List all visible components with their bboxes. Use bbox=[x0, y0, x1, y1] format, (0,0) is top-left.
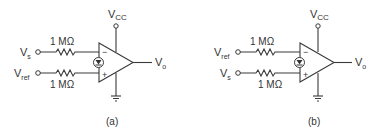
input-label-bottom: Vs bbox=[220, 67, 231, 81]
resistor-top-value: 1 MΩ bbox=[250, 36, 275, 47]
panel-b: Vref Vs 1 MΩ 1 MΩ − + VCC Vo (b) bbox=[214, 8, 366, 127]
vo-label: Vo bbox=[155, 56, 166, 70]
vo-label: Vo bbox=[355, 56, 366, 70]
pin-plus: + bbox=[303, 70, 308, 80]
terminal-bottom bbox=[36, 71, 41, 76]
resistor-top bbox=[40, 49, 99, 55]
vcc-terminal bbox=[114, 24, 118, 28]
pin-plus: + bbox=[102, 70, 107, 80]
resistor-bottom bbox=[240, 70, 300, 76]
resistor-bottom-value: 1 MΩ bbox=[50, 79, 75, 90]
terminal-top bbox=[36, 50, 41, 55]
terminal-top bbox=[236, 50, 241, 55]
circuit-figure: Vs Vref 1 MΩ 1 MΩ − + VCC Vo (a) Vref Vs bbox=[0, 0, 379, 133]
resistor-bottom-value: 1 MΩ bbox=[258, 79, 283, 90]
pin-minus: − bbox=[102, 47, 107, 57]
caption-a: (a) bbox=[106, 116, 118, 127]
caption-b: (b) bbox=[308, 116, 320, 127]
resistor-bottom bbox=[40, 70, 99, 76]
input-label-bottom: Vref bbox=[14, 67, 30, 81]
input-label-top: Vs bbox=[20, 46, 31, 60]
vcc-label: VCC bbox=[310, 8, 329, 22]
pin-minus: − bbox=[303, 47, 308, 57]
resistor-top bbox=[240, 49, 300, 55]
vcc-terminal bbox=[316, 24, 320, 28]
vcc-label: VCC bbox=[108, 8, 127, 22]
terminal-bottom bbox=[236, 71, 241, 76]
resistor-top-value: 1 MΩ bbox=[50, 36, 75, 47]
input-label-top: Vref bbox=[214, 46, 230, 60]
panel-a: Vs Vref 1 MΩ 1 MΩ − + VCC Vo (a) bbox=[14, 8, 166, 127]
